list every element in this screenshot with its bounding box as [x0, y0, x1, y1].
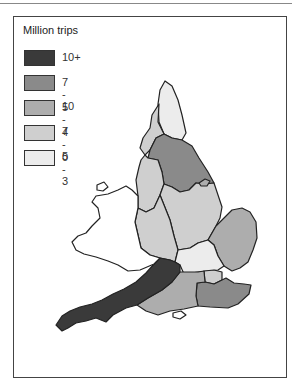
- region-isle-of-wight: [173, 311, 186, 319]
- region-anglesey: [97, 182, 108, 191]
- england-map: [0, 0, 298, 386]
